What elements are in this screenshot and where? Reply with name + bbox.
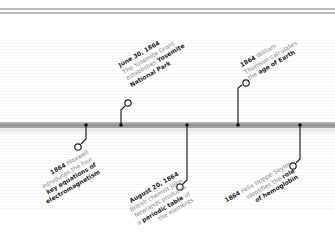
event-marker-thomson-icon[interactable] (243, 80, 249, 86)
event-marker-maxwell-icon[interactable] (75, 144, 81, 150)
connector-maxwell (75, 125, 86, 150)
bar-dot-yosemite-icon (119, 123, 123, 127)
bar-dot-hoppe-seyler-icon (298, 123, 302, 127)
bar-dot-maxwell-icon (84, 123, 88, 127)
event-marker-yosemite-icon[interactable] (125, 100, 131, 106)
connector-thomson (238, 80, 249, 125)
connector-yosemite (121, 100, 131, 125)
connector-hoppe-seyler (290, 125, 300, 169)
bar-dot-newlands-icon (185, 123, 189, 127)
bar-dot-thomson-icon (236, 123, 240, 127)
